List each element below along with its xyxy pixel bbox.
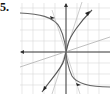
light-lines: [20, 2, 110, 94]
function-graph: [0, 0, 110, 94]
curves: [20, 10, 110, 92]
y-axis-up-arrow-icon: [64, 3, 68, 7]
